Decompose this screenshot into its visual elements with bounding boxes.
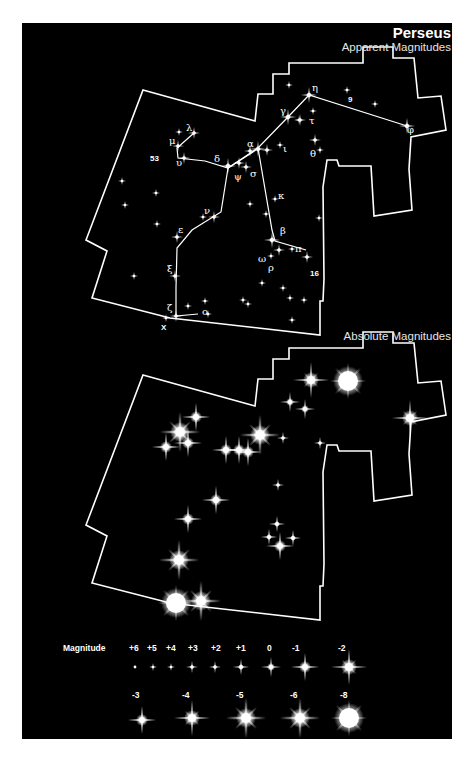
svg-text:+6: +6 — [129, 643, 139, 653]
svg-text:+3: +3 — [188, 643, 198, 653]
svg-text:+2: +2 — [211, 643, 221, 653]
constellation-chart: η 9 γ τ φ λ μ 53 υ δ α ι θ ψ σ κ ν ε β π… — [0, 0, 469, 763]
svg-text:μ: μ — [169, 135, 176, 146]
svg-text:κ: κ — [278, 190, 285, 201]
svg-text:-5: -5 — [236, 690, 244, 700]
legend-label: Magnitude — [63, 643, 106, 653]
stars-absolute — [151, 356, 428, 629]
page-title: Perseus — [393, 24, 451, 41]
stick-figure — [176, 95, 407, 316]
svg-text:16: 16 — [310, 269, 319, 278]
svg-text:53: 53 — [150, 154, 159, 163]
apparent-magnitudes-map: η 9 γ τ φ λ μ 53 υ δ α ι θ ψ σ κ ν ε β π… — [86, 47, 446, 335]
svg-text:-8: -8 — [340, 690, 348, 700]
constellation-boundary — [86, 47, 446, 335]
svg-text:ζ: ζ — [167, 302, 173, 313]
svg-text:ε: ε — [178, 224, 183, 235]
svg-text:0: 0 — [267, 643, 272, 653]
svg-text:ρ: ρ — [268, 262, 274, 273]
stars-apparent — [118, 81, 415, 324]
magnitude-legend: Magnitude +6 +5 +4 +3 +2 +1 0 -1 -2 -3 -… — [63, 643, 374, 743]
svg-text:σ: σ — [250, 168, 257, 179]
svg-text:τ: τ — [309, 115, 315, 126]
apparent-magnitudes-heading: Apparent Magnitudes — [342, 41, 451, 53]
svg-text:+1: +1 — [236, 643, 246, 653]
svg-text:γ: γ — [280, 105, 286, 116]
svg-text:X: X — [161, 323, 167, 332]
svg-text:ν: ν — [204, 205, 210, 216]
svg-text:φ: φ — [407, 124, 414, 135]
svg-text:υ: υ — [176, 157, 182, 168]
svg-text:λ: λ — [186, 122, 193, 133]
svg-text:-1: -1 — [292, 643, 300, 653]
svg-text:ο: ο — [202, 306, 208, 317]
svg-text:ι: ι — [283, 143, 287, 154]
constellation-boundary — [86, 332, 446, 620]
svg-text:9: 9 — [348, 95, 353, 104]
absolute-magnitudes-heading: Absolute Magnitudes — [344, 330, 451, 342]
star-labels: η 9 γ τ φ λ μ 53 υ δ α ι θ ψ σ κ ν ε β π… — [150, 82, 414, 332]
svg-text:δ: δ — [214, 153, 220, 164]
svg-text:+5: +5 — [147, 643, 157, 653]
svg-text:-4: -4 — [182, 690, 190, 700]
absolute-magnitudes-map — [86, 332, 446, 628]
svg-text:ξ: ξ — [167, 263, 173, 274]
svg-text:-2: -2 — [338, 643, 346, 653]
svg-text:ω: ω — [258, 253, 266, 264]
svg-text:π: π — [295, 243, 302, 254]
svg-text:+4: +4 — [166, 643, 176, 653]
svg-text:α: α — [247, 138, 254, 149]
svg-text:η: η — [312, 82, 318, 93]
svg-text:ψ: ψ — [234, 171, 242, 182]
svg-text:-6: -6 — [290, 690, 298, 700]
svg-text:θ: θ — [310, 148, 316, 159]
svg-text:-3: -3 — [132, 690, 140, 700]
svg-text:β: β — [280, 225, 286, 236]
